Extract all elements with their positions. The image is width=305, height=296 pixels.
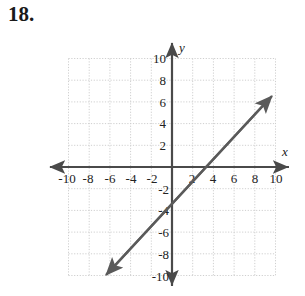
x-tick-labels: -10 -8 -6 -4 -2 2 4 6 8 10 [58, 171, 282, 186]
y-tick-4: 4 [160, 116, 167, 131]
y-axis-label: y [177, 40, 185, 55]
y-tick-6: 6 [160, 95, 167, 110]
x-tick--8: -8 [83, 171, 94, 186]
y-tick--10: -10 [152, 269, 169, 284]
x-tick--4: -4 [126, 171, 137, 186]
x-tick-10: 10 [270, 171, 283, 186]
y-tick--2: -2 [158, 182, 169, 197]
x-tick--6: -6 [105, 171, 116, 186]
x-tick-4: 4 [210, 171, 217, 186]
coordinate-graph: x y -10 -8 -6 -4 -2 2 4 6 8 10 10 8 6 4 [0, 0, 305, 296]
worksheet-page: 18. [0, 0, 305, 296]
x-tick--10: -10 [58, 171, 75, 186]
y-tick-10: 10 [153, 51, 166, 66]
x-tick-6: 6 [231, 171, 238, 186]
y-tick--6: -6 [158, 225, 169, 240]
x-tick--2: -2 [147, 171, 158, 186]
y-tick-8: 8 [160, 73, 167, 88]
x-axis-label: x [281, 144, 288, 159]
graph-svg: x y -10 -8 -6 -4 -2 2 4 6 8 10 10 8 6 4 [0, 0, 305, 296]
y-tick--8: -8 [158, 247, 169, 262]
x-tick-8: 8 [252, 171, 259, 186]
y-tick-2: 2 [160, 138, 167, 153]
